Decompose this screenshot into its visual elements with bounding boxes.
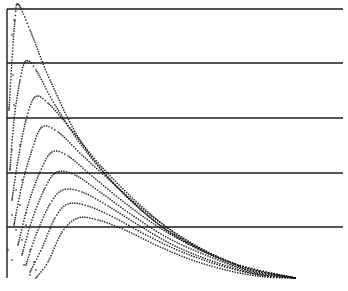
scatter-dot	[12, 74, 13, 75]
scatter-dot	[13, 104, 14, 105]
scatter-dot	[25, 224, 26, 225]
scatter-dot	[15, 229, 16, 230]
scatter-dot	[29, 249, 30, 250]
curve-series-group	[8, 3, 295, 278]
scatter-dot	[35, 269, 36, 270]
scatter-dot	[19, 144, 20, 145]
curve-family-chart	[0, 0, 348, 291]
scatter-dot	[11, 149, 12, 150]
scatter-dot	[7, 249, 8, 250]
series-curve-1	[8, 3, 295, 278]
scatter-dot	[21, 179, 22, 180]
series-curve-8	[29, 202, 295, 278]
scatter-dot	[21, 239, 22, 240]
series-curve-9	[35, 217, 295, 279]
series-curve-3	[11, 95, 295, 278]
scatter-dot	[23, 264, 24, 265]
scatter-dots	[7, 19, 36, 275]
scatter-dot	[15, 189, 16, 190]
series-curve-2	[9, 60, 295, 279]
scatter-dot	[25, 212, 26, 213]
scatter-dot	[11, 259, 12, 260]
scatter-dot	[29, 274, 30, 275]
scatter-dot	[19, 204, 20, 205]
series-curve-4	[13, 125, 295, 278]
series-curve-5	[17, 150, 295, 278]
scatter-dot	[33, 261, 34, 262]
scatter-dot	[11, 34, 12, 35]
scatter-dot	[13, 19, 14, 20]
scatter-dot	[11, 214, 12, 215]
